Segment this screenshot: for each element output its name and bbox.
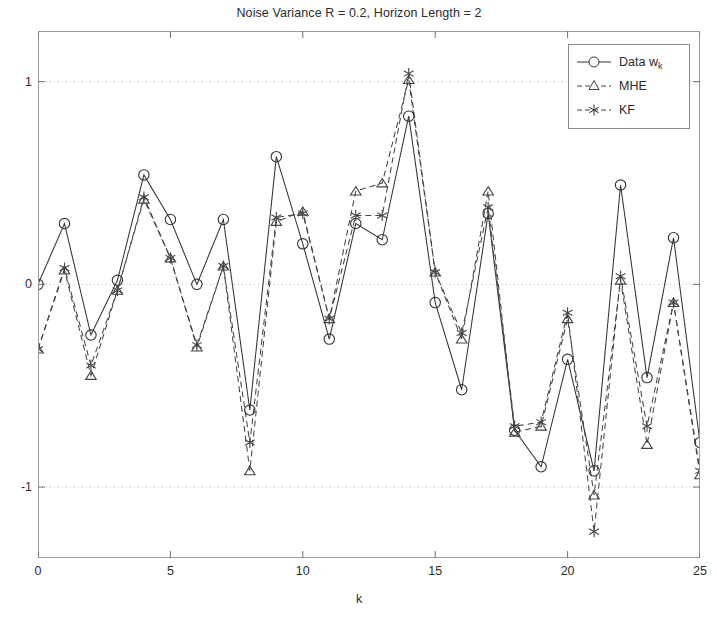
marker-asterisk-icon [563,307,573,318]
series-lines [38,74,700,532]
legend-label-kf: KF [613,103,635,117]
legend-label-mhe: MHE [613,79,647,93]
y-tick-label: -1 [2,480,32,494]
x-tick-label: 10 [283,564,323,578]
y-tick-label: 0 [2,277,32,291]
legend-item-data: Data wk [575,50,683,74]
legend-marker-circle-icon [575,53,613,71]
figure-container: Noise Variance R = 0.2, Horizon Length =… [0,0,718,628]
x-tick-label: 15 [415,564,455,578]
gridlines [38,82,700,487]
legend: Data wk MHE KF [568,44,690,129]
legend-marker-asterisk-icon [575,101,613,119]
chart-title: Noise Variance R = 0.2, Horizon Length =… [0,6,718,20]
legend-item-mhe: MHE [575,74,683,98]
marker-asterisk-icon [404,68,414,79]
y-tick-label: 1 [2,75,32,89]
legend-label-data-sub: k [658,61,663,71]
series-line-1 [38,80,700,496]
marker-asterisk-icon [589,526,599,537]
x-tick-label: 0 [18,564,58,578]
legend-item-kf: KF [575,98,683,122]
legend-marker-triangle-icon [575,77,613,95]
series-line-2 [38,74,700,532]
x-tick-label: 20 [548,564,588,578]
marker-asterisk-icon [483,202,493,213]
x-tick-label: 25 [680,564,718,578]
x-tick-label: 5 [150,564,190,578]
series-line-0 [38,116,700,471]
legend-label-data: Data wk [613,55,662,69]
x-axis-label: k [0,592,718,606]
legend-label-data-text: Data w [619,55,658,69]
